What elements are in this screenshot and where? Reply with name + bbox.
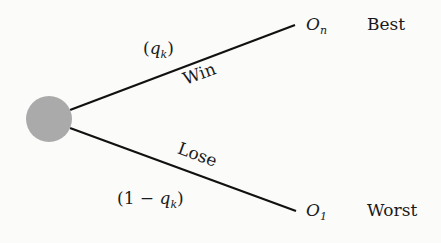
outcome-worst-label: Worst (367, 200, 417, 220)
win-branch (70, 25, 295, 110)
outcome-best-symbol: On (306, 14, 327, 37)
outcome-best-label: Best (367, 14, 405, 34)
lose-probability: (1 − qk) (117, 188, 184, 211)
decision-tree-diagram: (qk) Win Lose (1 − qk) On Best O1 Worst (0, 0, 441, 243)
win-probability: (qk) (143, 38, 174, 61)
outcome-worst-symbol: O1 (306, 200, 327, 223)
chance-node (26, 96, 72, 142)
